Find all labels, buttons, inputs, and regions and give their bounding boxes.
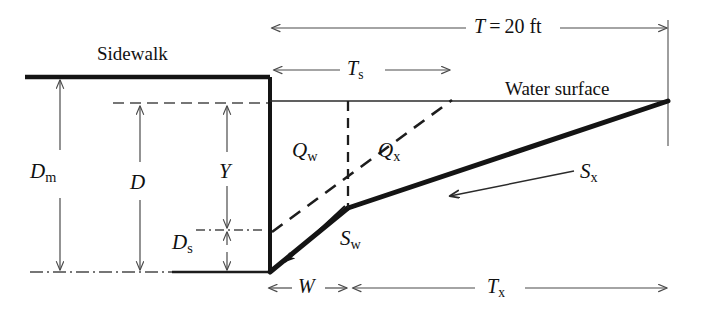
- sx-slope-arrow: [450, 171, 574, 196]
- figure-canvas: Sidewalk Water surface T = 20 ft Ts Dm D…: [0, 0, 702, 313]
- dimension-Ds-label: Ds: [172, 232, 193, 253]
- dimension-T-symbol: T: [474, 15, 485, 37]
- slope-Sw-label: Sw: [340, 228, 361, 249]
- dimension-D-label: D: [130, 172, 145, 193]
- dimension-Ds-sub: s: [187, 240, 193, 256]
- gutter-pavement-profile: [270, 101, 668, 272]
- sidewalk-label: Sidewalk: [97, 44, 168, 63]
- gutter-slope-extension-dashed: [272, 100, 452, 232]
- dimension-W-base: W: [298, 275, 315, 297]
- slope-Sw-base: S: [340, 226, 351, 250]
- dimension-Dm-sub: m: [45, 169, 56, 185]
- slope-Sx-sub: x: [591, 169, 598, 185]
- flow-Qx-sub: x: [393, 148, 400, 164]
- sidewalk-curb-outline: [25, 77, 270, 272]
- dimension-Dm-label: Dm: [30, 161, 56, 182]
- dimension-Dm-base: D: [30, 159, 45, 183]
- flow-Qx-base: Q: [378, 138, 393, 162]
- dimension-D-base: D: [130, 170, 145, 194]
- dimension-Y-label: Y: [219, 161, 231, 182]
- water-surface-label: Water surface: [505, 79, 609, 98]
- dimension-Ts-sub: s: [358, 67, 364, 82]
- slope-Sx-label: Sx: [580, 161, 598, 182]
- dimension-Tx-label: Tx: [487, 276, 505, 296]
- dimension-W-label: W: [298, 276, 315, 296]
- dimension-Tx-sub: x: [498, 285, 505, 300]
- dimension-T-equals: =: [485, 15, 504, 37]
- flow-Qw-sub: w: [307, 148, 318, 164]
- slope-Sw-sub: w: [351, 236, 362, 252]
- dimension-T-label: T = 20 ft: [474, 16, 542, 36]
- dimension-Ds-base: D: [172, 230, 187, 254]
- slope-Sx-base: S: [580, 159, 591, 183]
- dimension-Ts-base: T: [347, 57, 358, 79]
- dimension-T-value: 20 ft: [504, 15, 541, 37]
- dimension-Tx-base: T: [487, 275, 498, 297]
- flow-region-Qw-label: Qw: [292, 140, 318, 161]
- flow-Qw-base: Q: [292, 138, 307, 162]
- dimension-Y-base: Y: [219, 159, 231, 183]
- dimension-Ts-label: Ts: [347, 58, 364, 78]
- flow-region-Qx-label: Qx: [378, 140, 401, 161]
